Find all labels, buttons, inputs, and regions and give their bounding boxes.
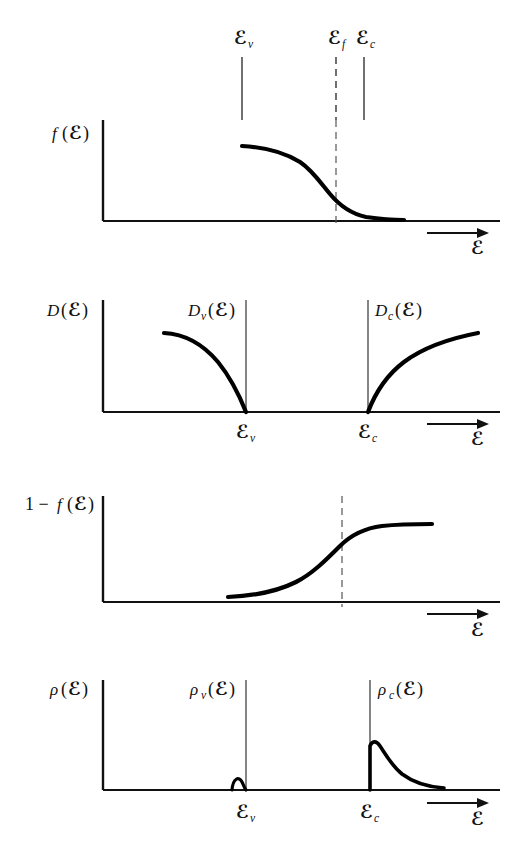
panel-density-of-states: D ( ℰ ) D v ( ℰ ) D c ( — [0, 258, 508, 458]
panel2-xlabel: ℰ — [471, 428, 484, 449]
marker-ec-subscript: c — [370, 38, 375, 50]
panel2-label-dv-main: D — [187, 301, 201, 320]
panel-carrier-density-svg: ρ ( ℰ ) ρ v ( ℰ ) ρ c ( — [0, 648, 508, 844]
panel4-label-rhov-sub: v — [201, 689, 207, 701]
panel3-xaxis-arrow — [427, 609, 489, 619]
panel4-label-rhov-open: ( — [208, 679, 214, 700]
panel2-label-dv-eps: ℰ — [215, 299, 228, 320]
panel1-ylabel-f: f — [52, 124, 59, 143]
panel2-label-dv: D v ( ℰ ) — [187, 299, 235, 322]
panel4-ylabel-eps: ℰ — [68, 678, 81, 699]
panel2-ylabel: D ( ℰ ) — [46, 299, 88, 321]
panel4-curve-rhov — [232, 779, 246, 790]
panel2-label-dc-main: D — [374, 301, 388, 320]
panel4-label-rhov-eps: ℰ — [215, 678, 228, 699]
figure-root: ℰ v ℰ f ℰ c f ( ℰ ) — [0, 0, 508, 844]
panel-density-of-states-svg: D ( ℰ ) D v ( ℰ ) D c ( — [0, 258, 508, 458]
marker-ev-subscript: v — [248, 38, 254, 50]
panel4-label-rhoc-eps: ℰ — [403, 678, 416, 699]
panel2-xtick-ec-eps: ℰ — [358, 421, 371, 442]
panel1-curve-f — [242, 146, 404, 220]
panel4-label-rhov-close: ) — [229, 679, 235, 700]
panel2-ylabel-d: D — [46, 301, 60, 320]
panel4-xlabel: ℰ — [471, 808, 484, 829]
panel1-ylabel-eps: ℰ — [69, 122, 82, 143]
top-marker-ec: ℰ c — [356, 27, 375, 120]
panel3-curve — [228, 524, 432, 597]
panel3-xlabel: ℰ — [471, 619, 484, 640]
panel4-xtick-ev-eps: ℰ — [236, 801, 249, 822]
panel4-xtick-ev: ℰ v — [236, 801, 256, 824]
panel4-xtick-ec-eps: ℰ — [360, 801, 373, 822]
panel2-ylabel-close: ) — [82, 300, 88, 321]
panel2-label-dc: D c ( ℰ ) — [374, 299, 422, 322]
panel-one-minus-f-svg: 1 − f ( ℰ ) ℰ — [0, 458, 508, 648]
top-marker-ev: ℰ v — [234, 27, 254, 120]
panel3-ylabel-close: ) — [88, 494, 94, 515]
panel4-label-rhoc-close: ) — [417, 679, 423, 700]
panel-carrier-density: ρ ( ℰ ) ρ v ( ℰ ) ρ c ( — [0, 648, 508, 844]
panel2-xtick-ev-eps: ℰ — [236, 421, 249, 442]
panel3-ylabel-eps: ℰ — [74, 493, 87, 514]
panel-fermi-dirac-svg: ℰ v ℰ f ℰ c f ( ℰ ) — [0, 0, 508, 258]
panel2-curve-dc — [368, 333, 478, 412]
panel2-xtick-ev: ℰ v — [236, 421, 256, 444]
panel4-label-rhoc-main: ρ — [377, 680, 386, 699]
panel4-ylabel-rho: ρ — [49, 680, 58, 699]
panel2-curve-dv — [164, 333, 246, 412]
panel4-curve-rhoc — [370, 742, 444, 790]
panel4-xtick-ec-sub: c — [374, 812, 379, 824]
marker-ev-symbol: ℰ — [234, 27, 247, 48]
panel-fermi-dirac: ℰ v ℰ f ℰ c f ( ℰ ) — [0, 0, 508, 258]
panel1-ylabel-close: ) — [83, 123, 89, 144]
panel2-label-dc-eps: ℰ — [402, 299, 415, 320]
panel4-xaxis-arrow — [427, 798, 489, 808]
top-marker-ef: ℰ f — [328, 27, 347, 120]
panel2-label-dc-sub: c — [388, 310, 393, 322]
panel3-ylabel-open: ( — [67, 494, 73, 515]
panel2-label-dv-close: ) — [229, 300, 235, 321]
panel4-label-rhoc-open: ( — [396, 679, 402, 700]
panel2-label-dv-sub: v — [201, 310, 207, 322]
panel2-xtick-ec: ℰ c — [358, 421, 377, 444]
panel4-label-rhoc-sub: c — [389, 689, 394, 701]
panel1-xlabel: ℰ — [471, 237, 484, 258]
panel2-ylabel-open: ( — [61, 300, 67, 321]
panel4-ylabel-open: ( — [61, 679, 67, 700]
marker-ef-subscript: f — [342, 38, 347, 51]
panel4-label-rhoc: ρ c ( ℰ ) — [377, 678, 423, 701]
panel4-label-rhov: ρ v ( ℰ ) — [189, 678, 235, 701]
panel2-ylabel-eps: ℰ — [68, 299, 81, 320]
panel3-ylabel-prefix: 1 − — [25, 494, 49, 514]
panel4-ylabel-close: ) — [82, 679, 88, 700]
panel3-ylabel-f: f — [57, 495, 64, 514]
panel4-xtick-ev-sub: v — [250, 812, 256, 824]
panel2-xtick-ec-sub: c — [372, 432, 377, 444]
panel2-label-dc-open: ( — [395, 300, 401, 321]
panel4-label-rhov-main: ρ — [189, 680, 198, 699]
marker-ec-symbol: ℰ — [356, 27, 369, 48]
panel2-label-dv-open: ( — [208, 300, 214, 321]
panel-one-minus-f: 1 − f ( ℰ ) ℰ — [0, 458, 508, 648]
panel4-xtick-ec: ℰ c — [360, 801, 379, 824]
panel3-ylabel: 1 − f ( ℰ ) — [25, 493, 94, 515]
panel1-ylabel: f ( ℰ ) — [52, 122, 89, 144]
panel2-label-dc-close: ) — [416, 300, 422, 321]
marker-ef-symbol: ℰ — [328, 27, 341, 48]
panel1-ylabel-open: ( — [62, 123, 68, 144]
panel2-xtick-ev-sub: v — [250, 432, 256, 444]
panel4-ylabel: ρ ( ℰ ) — [49, 678, 88, 700]
